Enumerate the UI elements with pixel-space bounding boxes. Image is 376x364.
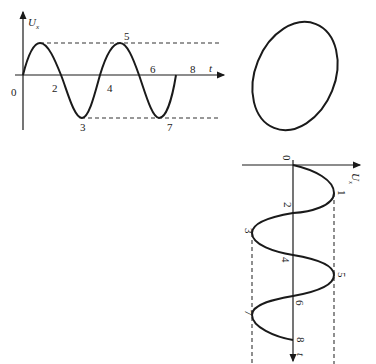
diagram-canvas: Ux t 0 2 4 5 6 3 7 8 0 Ux 1 2 3 4 5 6 7 … xyxy=(0,0,376,364)
sine-waveform xyxy=(23,43,176,118)
origin-label-rotated: 0 xyxy=(281,155,293,161)
point-label-3-rot: 3 xyxy=(243,228,255,234)
point-label-3: 3 xyxy=(80,121,86,133)
point-label-4: 4 xyxy=(107,82,113,94)
ux-axis-label: Ux xyxy=(347,173,362,185)
origin-label: 0 xyxy=(11,86,17,98)
point-label-2: 2 xyxy=(52,82,58,94)
t-axis-label-rotated: t xyxy=(295,353,307,357)
lissajous-figure xyxy=(237,9,353,143)
time-waveform-chart: Ux t 0 2 4 5 6 3 7 8 xyxy=(11,12,224,133)
point-label-4-rot: 4 xyxy=(280,257,292,263)
point-label-2-rot: 2 xyxy=(282,202,294,208)
t-axis-label: t xyxy=(209,62,213,74)
point-label-5-rot: 5 xyxy=(336,272,348,278)
point-label-1: 1 xyxy=(336,190,348,196)
y-axis-label: Ux xyxy=(28,16,40,31)
projected-waveform-chart: 0 Ux 1 2 3 4 5 6 7 8 t xyxy=(242,155,362,364)
ellipse-trace xyxy=(237,9,353,143)
point-label-6-rot: 6 xyxy=(294,300,306,306)
point-label-6: 6 xyxy=(150,63,156,75)
point-label-5: 5 xyxy=(124,30,130,42)
point-label-7-rot: 7 xyxy=(243,310,255,316)
point-label-8-rot: 8 xyxy=(295,337,307,343)
point-label-7: 7 xyxy=(167,121,173,133)
point-label-8: 8 xyxy=(190,63,196,75)
